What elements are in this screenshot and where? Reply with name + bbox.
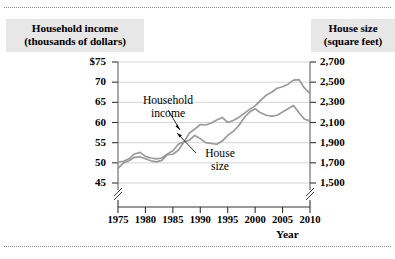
left-tick-label: 70 xyxy=(62,75,106,87)
right-tick-label: 2,100 xyxy=(320,116,368,128)
right-tick-label: 1,500 xyxy=(320,176,368,188)
left-tick-label: 50 xyxy=(62,156,106,168)
right-axis-ticks xyxy=(310,62,316,183)
x-axis-tick-marks xyxy=(118,207,310,213)
right-tick-label: 1,700 xyxy=(320,156,368,168)
right-tick-label: 2,300 xyxy=(320,95,368,107)
series-label-house-size: House size xyxy=(196,148,244,174)
series-label-house-size-line2: size xyxy=(196,161,244,174)
left-tick-label: 60 xyxy=(62,116,106,128)
series-label-house-size-line1: House xyxy=(196,148,244,161)
left-tick-label: 55 xyxy=(62,136,106,148)
series-label-household-income-line2: income xyxy=(126,108,210,121)
chart-figure: Household income (thousands of dollars) … xyxy=(0,0,395,259)
left-tick-label: $75 xyxy=(62,55,106,67)
axis-spines xyxy=(118,62,310,207)
right-tick-label: 2,500 xyxy=(320,75,368,87)
axis-break-marks xyxy=(114,188,314,200)
right-tick-label: 2,700 xyxy=(320,55,368,67)
left-tick-label: 45 xyxy=(62,176,106,188)
x-axis-title: Year xyxy=(276,228,299,240)
series-label-household-income: Household income xyxy=(126,95,210,121)
series-label-household-income-line1: Household xyxy=(126,95,210,108)
left-axis-ticks xyxy=(112,62,118,183)
left-tick-label: 65 xyxy=(62,95,106,107)
right-tick-label: 1,900 xyxy=(320,136,368,148)
x-tick-label: 2010 xyxy=(293,214,327,225)
